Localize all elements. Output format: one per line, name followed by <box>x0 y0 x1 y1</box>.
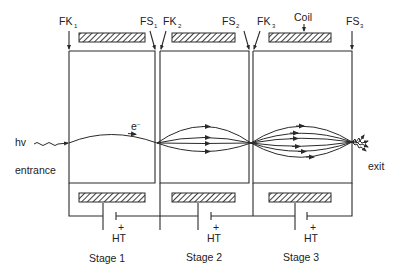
stage-1-chamber <box>69 51 155 183</box>
entrance-label: entrance <box>15 164 56 176</box>
electron-ray-icon <box>251 126 352 157</box>
svg-text:3: 3 <box>272 23 276 29</box>
output-photon-icon <box>352 135 368 151</box>
stage-1-label: Stage 1 <box>89 252 125 264</box>
coil-icon <box>269 193 331 202</box>
svg-text:HT: HT <box>304 232 319 244</box>
svg-text:FK: FK <box>163 15 176 27</box>
label-fs3: FS3 <box>346 15 364 29</box>
coil-icon <box>172 193 235 202</box>
svg-text:HT: HT <box>112 232 127 244</box>
label-fk1: FK1 <box>59 15 78 29</box>
svg-text:HT: HT <box>207 232 222 244</box>
battery-icon: + HT <box>207 221 222 244</box>
stage-2-chamber <box>160 51 249 183</box>
coil-icon <box>79 193 145 202</box>
label-fs2: FS2 <box>222 15 240 29</box>
svg-text:FK: FK <box>59 15 72 27</box>
label-fs1: FS1 <box>140 15 158 29</box>
label-fk2: FK2 <box>163 15 182 29</box>
svg-text:1: 1 <box>154 23 158 29</box>
svg-text:FS: FS <box>140 15 153 27</box>
image-intensifier-diagram: FK1 FS1 FK2 FS2 FK3 FS3 Coil <box>0 0 401 277</box>
battery-icon: + HT <box>304 221 319 244</box>
coil-icon <box>79 33 145 42</box>
stage-2-label: Stage 2 <box>186 251 222 263</box>
coil-label: Coil <box>294 11 312 23</box>
svg-text:FK: FK <box>257 15 270 27</box>
coil-icon <box>269 33 331 42</box>
electron-ray-icon <box>157 127 251 152</box>
stage-3-label: Stage 3 <box>283 251 319 263</box>
label-fk3: FK3 <box>257 15 276 29</box>
svg-text:3: 3 <box>360 23 364 29</box>
svg-text:2: 2 <box>236 23 240 29</box>
coil-icon <box>172 33 235 42</box>
svg-text:2: 2 <box>178 23 182 29</box>
electron-ray-icon <box>69 134 157 144</box>
svg-text:1: 1 <box>74 23 78 29</box>
hv-label: hv <box>15 136 27 148</box>
svg-text:FS: FS <box>346 15 359 27</box>
svg-text:FS: FS <box>222 15 235 27</box>
photon-icon <box>34 143 68 146</box>
battery-icon: + HT <box>112 221 127 244</box>
stage-3-chamber <box>253 51 352 183</box>
exit-label: exit <box>368 160 384 172</box>
electron-label: e– <box>131 120 141 132</box>
